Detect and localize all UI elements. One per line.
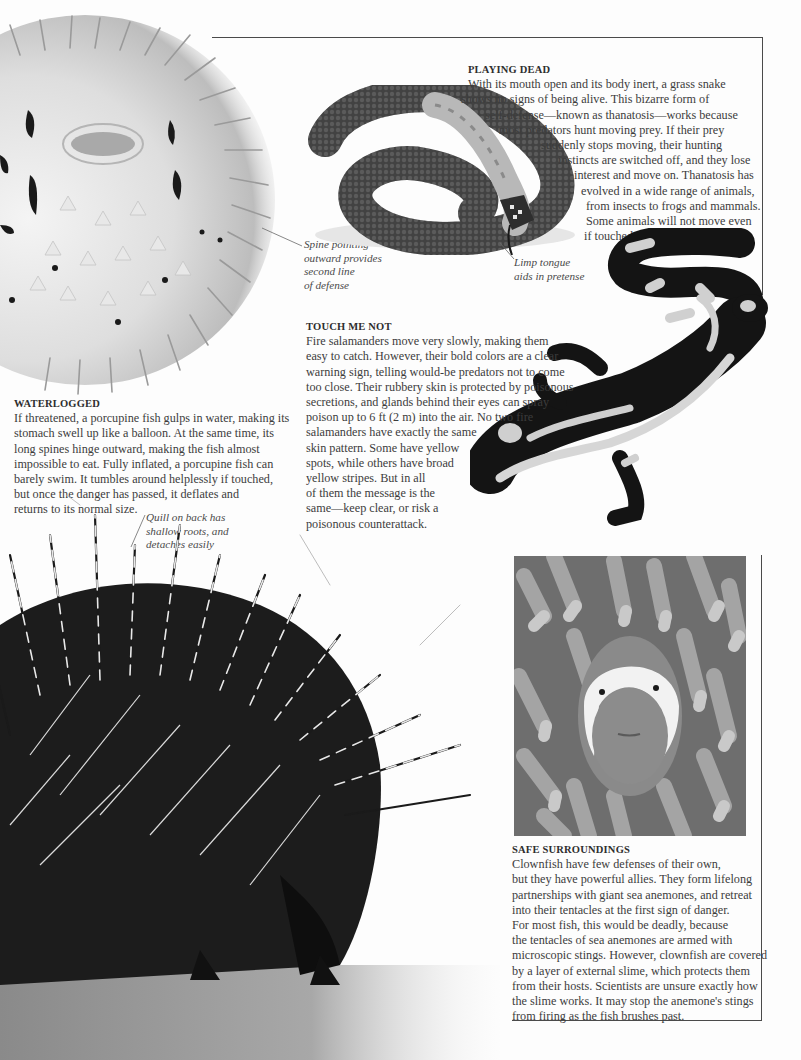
body-line: most predators hunt moving prey. If thei…	[499, 123, 761, 138]
body-line: microscopic stings. However, clownfish a…	[512, 948, 767, 963]
body-line: the slime works. It may stop the anemone…	[512, 994, 767, 1009]
frame-top-rule	[212, 37, 763, 38]
body-line: salamanders have exactly the same	[306, 425, 574, 440]
clownfish-image	[514, 556, 746, 836]
body-line: self-defense—known as thanatosis—works b…	[485, 108, 761, 123]
body-line: For most fish, this would be deadly, bec…	[512, 918, 767, 933]
body-line: but they have powerful allies. They form…	[512, 872, 767, 887]
body-line: poison up to 6 ft (2 m) into the air. No…	[306, 410, 574, 425]
body-line: evolved in a wide range of animals,	[581, 184, 761, 199]
body-line: partnerships with giant sea anemones, an…	[512, 888, 767, 903]
playing-dead-heading: PLAYING DEAD	[468, 62, 761, 77]
waterlogged-heading: WATERLOGGED	[14, 396, 289, 411]
body-line: by a layer of external slime, which prot…	[512, 964, 767, 979]
body-line: With its mouth open and its body inert, …	[468, 77, 761, 92]
body-line: Clownfish have few defenses of their own…	[512, 857, 767, 872]
body-line: instincts are switched off, and they los…	[558, 153, 761, 168]
body-line: from their hosts. Scientists are unsure …	[512, 979, 767, 994]
body-line: easy to catch. However, their bold color…	[306, 349, 574, 364]
body-line: from insects to frogs and mammals.	[586, 199, 761, 214]
body-line: suddenly stops moving, their hunting	[541, 138, 761, 153]
body-line: shows no signs of being alive. This biza…	[461, 92, 761, 107]
safe-surroundings-heading: SAFE SURROUNDINGS	[512, 842, 767, 857]
body-line: stomach swell up like a balloon. At the …	[14, 426, 289, 441]
body-line: too close. Their rubbery skin is protect…	[306, 380, 574, 395]
body-line: barely swim. It tumbles around helplessl…	[14, 472, 289, 487]
body-line: skin pattern. Some have yellow	[306, 441, 574, 456]
body-line: secretions, and glands behind their eyes…	[306, 395, 574, 410]
body-line: the tentacles of sea anemones are armed …	[512, 933, 767, 948]
body-line: spots, while others have broad	[306, 456, 574, 471]
body-line: warning sign, telling would-be predators…	[306, 365, 574, 380]
body-line: yellow stripes. But in all	[306, 471, 574, 486]
playing-dead-section: PLAYING DEAD With its mouth open and its…	[468, 62, 761, 244]
body-line: If threatened, a porcupine fish gulps in…	[14, 411, 289, 426]
body-line: Some animals will not move even	[586, 214, 761, 229]
body-line: long spines hinge outward, making the fi…	[14, 442, 289, 457]
body-line: impossible to eat. Fully inflated, a por…	[14, 457, 289, 472]
spine-leader-line	[262, 228, 304, 248]
body-line: interest and move on. Thanatosis has	[574, 168, 761, 183]
porcupine-image	[0, 495, 500, 1060]
body-line: into their tentacles at the first sign o…	[512, 903, 767, 918]
body-line: Fire salamanders move very slowly, makin…	[306, 334, 574, 349]
caption-line: second line	[304, 265, 382, 279]
caption-line: of defense	[304, 279, 382, 293]
body-line: from firing as the fish brushes past.	[512, 1009, 767, 1024]
porcupine-fish-image	[0, 10, 285, 395]
touch-me-not-heading: TOUCH ME NOT	[306, 319, 574, 334]
safe-surroundings-section: SAFE SURROUNDINGS Clownfish have few def…	[512, 842, 767, 1024]
